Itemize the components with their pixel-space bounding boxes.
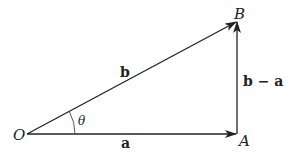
- angle-theta-arc: [69, 111, 75, 134]
- point-O-label: O: [13, 126, 25, 144]
- vector-a-label: a: [121, 135, 130, 151]
- vector-b-minus-a-label: b − a: [243, 73, 283, 89]
- vector-b-label: b: [120, 64, 130, 80]
- point-A-label: A: [237, 132, 250, 150]
- angle-theta-label: θ: [78, 114, 86, 128]
- point-B-label: B: [233, 5, 245, 23]
- vector-b-arrow: [27, 22, 236, 134]
- vector-diagram: O A B b b − a a θ: [0, 0, 293, 155]
